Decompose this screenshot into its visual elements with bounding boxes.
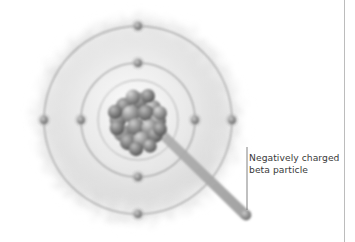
beta-particle-label: Negatively charged beta particle [249, 152, 349, 175]
electron [73, 112, 89, 128]
electron [187, 112, 203, 128]
electron [130, 206, 146, 222]
beta-particle [241, 210, 252, 221]
electron [36, 112, 52, 128]
electron [130, 18, 146, 34]
beta-decay-illustration [0, 0, 355, 242]
electron [130, 55, 146, 71]
electron [224, 112, 240, 128]
electron [130, 169, 146, 185]
